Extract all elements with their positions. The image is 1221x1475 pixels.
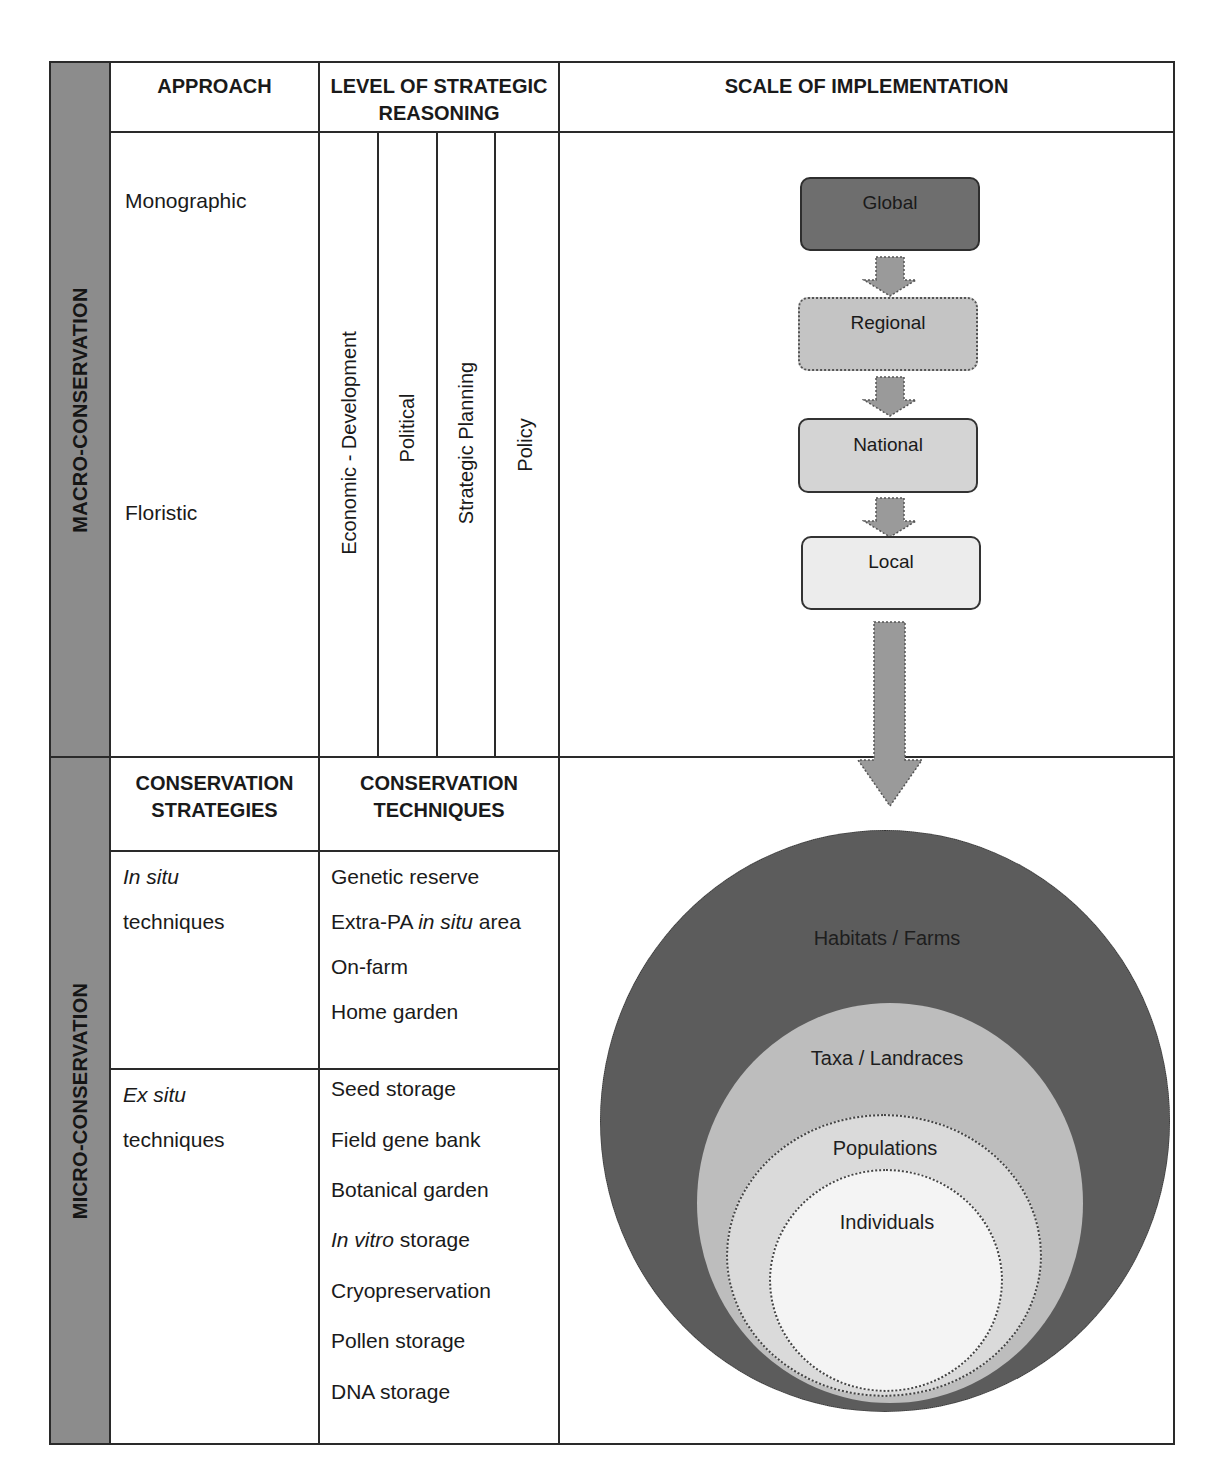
approach-monographic: Monographic: [125, 188, 246, 214]
technique-item: Field gene bank: [331, 1127, 480, 1153]
approach-floristic: Floristic: [125, 500, 197, 526]
level-header-line1: LEVEL OF STRATEGIC: [320, 73, 558, 100]
scale-local-text: Local: [868, 551, 913, 573]
macro-conservation-label: MACRO-CONSERVATION: [69, 287, 92, 532]
in-situ-strategy-suffix: techniques: [123, 909, 225, 935]
level-political: Political: [378, 293, 436, 593]
ex-situ-strategy: Ex situ: [123, 1082, 186, 1108]
technique-item: On-farm: [331, 954, 408, 980]
label-populations: Populations: [833, 1137, 938, 1160]
strategies-header-line2: STRATEGIES: [111, 797, 318, 824]
approach-header: APPROACH: [109, 61, 320, 133]
ex-situ-strategy-suffix: techniques: [123, 1127, 225, 1153]
level-strategic-text: Strategic Planning: [455, 362, 478, 524]
ex-situ-techniques-cell: Seed storage Field gene bank Botanical g…: [318, 1068, 560, 1445]
label-taxa-landraces: Taxa / Landraces: [811, 1047, 963, 1070]
in-situ-strategy: In situ: [123, 864, 179, 890]
level-header: LEVEL OF STRATEGIC REASONING: [318, 61, 560, 133]
scale-national-text: National: [853, 434, 923, 456]
label-habitats-farms: Habitats / Farms: [814, 927, 961, 950]
label-individuals: Individuals: [840, 1211, 935, 1234]
in-situ-techniques-cell: Genetic reserve Extra-PA in situ area On…: [318, 850, 560, 1070]
technique-item: Genetic reserve: [331, 864, 479, 890]
technique-item: DNA storage: [331, 1379, 450, 1405]
technique-item: Cryopreservation: [331, 1278, 491, 1304]
ex-situ-strategy-cell: Ex situ techniques: [109, 1068, 320, 1445]
in-situ-strategy-cell: In situ techniques: [109, 850, 320, 1070]
arrow-down-large-icon: [855, 620, 925, 810]
approach-cell: Monographic Floristic: [109, 131, 320, 758]
technique-item: Home garden: [331, 999, 458, 1025]
techniques-header: CONSERVATION TECHNIQUES: [318, 756, 560, 852]
scale-box-national: National: [798, 418, 978, 493]
micro-conservation-label: MICRO-CONSERVATION: [69, 982, 92, 1219]
technique-item: In vitro storage: [331, 1227, 470, 1253]
level-header-line2: REASONING: [320, 100, 558, 127]
level-political-text: Political: [396, 394, 419, 463]
scale-box-local: Local: [801, 536, 981, 610]
technique-item: Seed storage: [331, 1076, 456, 1102]
macro-conservation-band: MACRO-CONSERVATION: [49, 61, 111, 758]
technique-item: Pollen storage: [331, 1328, 465, 1354]
level-economic-text: Economic - Development: [338, 331, 361, 554]
ex-situ-italic: Ex situ: [123, 1083, 186, 1106]
in-situ-italic: In situ: [123, 865, 179, 888]
scale-box-regional: Regional: [798, 297, 978, 371]
level-economic-development: Economic - Development: [320, 293, 378, 593]
arrow-down-icon: [862, 376, 918, 418]
strategies-header: CONSERVATION STRATEGIES: [109, 756, 320, 852]
level-policy: Policy: [496, 293, 554, 593]
arrow-down-icon: [862, 256, 918, 298]
technique-item: Botanical garden: [331, 1177, 489, 1203]
techniques-header-line1: CONSERVATION: [320, 770, 558, 797]
level-policy-text: Policy: [514, 418, 537, 471]
approach-header-text: APPROACH: [157, 75, 271, 97]
scale-global-text: Global: [863, 192, 918, 214]
scale-header: SCALE OF IMPLEMENTATION: [558, 61, 1175, 133]
strategies-header-line1: CONSERVATION: [111, 770, 318, 797]
scale-regional-text: Regional: [851, 312, 926, 334]
level-cell: Economic - Development Political Strateg…: [318, 131, 560, 758]
level-strategic-planning: Strategic Planning: [437, 293, 495, 593]
technique-item: Extra-PA in situ area: [331, 909, 521, 935]
circle-individuals: [769, 1169, 1003, 1392]
micro-conservation-band: MICRO-CONSERVATION: [49, 756, 111, 1445]
arrow-down-icon: [862, 497, 918, 539]
techniques-header-line2: TECHNIQUES: [320, 797, 558, 824]
scale-header-text: SCALE OF IMPLEMENTATION: [725, 75, 1009, 97]
scale-box-global: Global: [800, 177, 980, 251]
